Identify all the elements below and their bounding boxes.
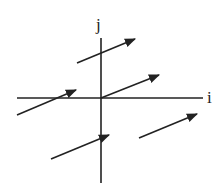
i-axis-label: i [207, 89, 212, 106]
vector-arrow-icon [77, 39, 135, 63]
vector-arrows [17, 39, 197, 159]
vector-field-diagram [0, 0, 221, 196]
j-axis-label: j [96, 16, 101, 33]
vector-arrow-icon [139, 114, 197, 138]
vector-arrow-icon [101, 75, 159, 98]
vector-arrow-icon [17, 90, 76, 115]
